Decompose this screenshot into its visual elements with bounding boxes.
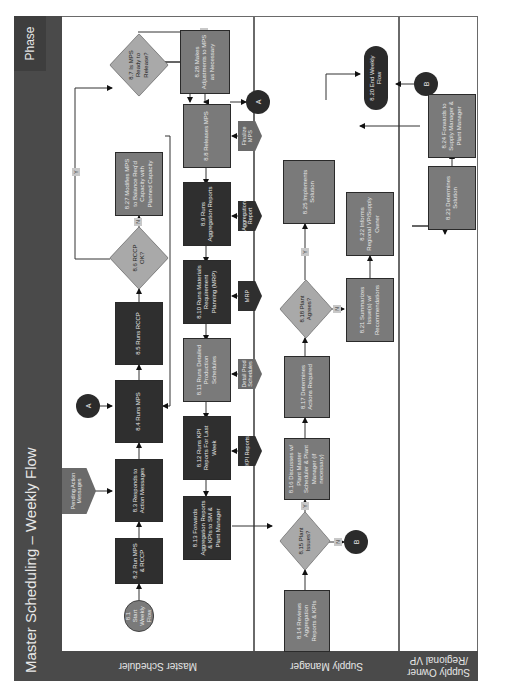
step-8-10: 8.10 Runs Materials Requirement Planning… xyxy=(183,260,231,324)
step-8-14: 8.14 Reviews Aggregation Reports & KPIs xyxy=(284,590,330,652)
step-8-24: 8.24 Forwards to Supply Manager & Plant … xyxy=(428,94,476,158)
decision-8-7: 8.7 Is MPS Ready to Release? xyxy=(110,34,168,96)
swimlane-diagram: Master Scheduling – Weekly Flow Phase Ma… xyxy=(0,0,518,696)
step-8-11: 8.11 Runs Detailed Production Schedules xyxy=(183,338,231,402)
no-label-8-15: N xyxy=(334,538,342,546)
step-8-28: 8.28 Makes Adjustments to MPS as Necessa… xyxy=(180,30,230,94)
step-8-1-start: 8.1 Start Weekly Flow xyxy=(124,600,154,632)
step-8-20-end: 8.20 End Weekly Flow xyxy=(364,46,388,110)
step-8-5: 8.5 Runs RCCP xyxy=(115,302,163,365)
connector-a-in: A xyxy=(76,394,100,418)
step-8-8: 8.8 Releases MPS xyxy=(183,104,231,168)
yes-label-8-18: Y xyxy=(301,248,309,256)
step-8-22: 8.22 Informs Regional VP/Supply Owner xyxy=(346,192,394,256)
step-8-4: 8.4 Runs MPS xyxy=(115,380,163,443)
step-8-27: 8.27 Modifies MPS to Balance Req'd Capac… xyxy=(115,152,163,216)
step-8-25: 8.25 Implements Solution xyxy=(283,160,335,224)
step-8-21: 8.21 Summarizes Issue(s) w/ Recommendati… xyxy=(346,278,394,342)
decision-8-18: 8.18 Plant Agrees? xyxy=(280,280,332,338)
step-8-17: 8.17 Determines Actions Required xyxy=(284,356,330,418)
connector-b-in: B xyxy=(414,72,438,96)
step-8-23: 8.23 Determines Solution xyxy=(428,166,476,230)
yes-label-8-6: Y xyxy=(72,168,80,176)
yes-label-8-15: Y xyxy=(301,502,309,510)
step-8-13: 8.13 Forwards Aggregation Reports & KPIs… xyxy=(183,496,231,560)
decision-8-6: 8.6 RCCP OK? xyxy=(110,227,168,289)
step-8-9: 8.9 Runs Aggregation Reports xyxy=(183,182,231,246)
connector-a-out: A xyxy=(246,90,270,114)
connector-b-out: B xyxy=(344,530,368,554)
decision-8-15: 8.15 Plant Issues? xyxy=(280,512,330,570)
step-8-16: 8.16 Discusses w/ Plant Master Scheduler… xyxy=(284,438,330,500)
no-label-8-18: N xyxy=(333,305,341,313)
no-label-8-6: N xyxy=(134,218,142,226)
step-8-3: 8.3 Responds to Action Messages xyxy=(115,459,163,522)
step-8-12: 8.12 Runs KPI Reports For Last Week xyxy=(183,416,231,480)
step-8-2: 8.2 Run MPS & RCCP xyxy=(115,538,163,584)
